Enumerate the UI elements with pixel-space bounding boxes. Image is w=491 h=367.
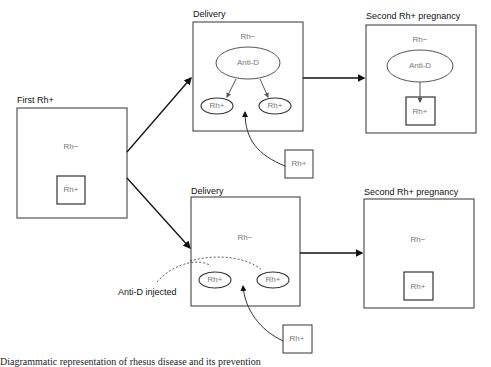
top-delivery-mother-rh: Rh− [241, 32, 256, 41]
bottom-incoming-rh-text: Rh+ [290, 334, 305, 343]
top-delivery-label: Delivery [193, 9, 226, 19]
bottom-delivery-cell-left-text: Rh+ [208, 275, 223, 284]
top-delivery-cell-left-text: Rh+ [210, 101, 225, 110]
first-mother-rh: Rh− [64, 142, 79, 151]
arrow-first-to-bottom-delivery [127, 178, 190, 248]
top-delivery-antid: Anti-D [237, 58, 259, 67]
top-second-fetus-rh: Rh+ [413, 107, 428, 116]
top-incoming-rh-text: Rh+ [292, 159, 307, 168]
top-second-mother-rh: Rh− [413, 35, 428, 44]
first-pregnancy-label: First Rh+ [17, 95, 54, 105]
arrow-first-to-top-delivery [127, 78, 191, 152]
figure-caption: Diagrammatic representation of rhesus di… [0, 356, 261, 367]
bottom-second-mother-rh: Rh− [411, 235, 426, 244]
first-pregnancy-box [17, 108, 127, 218]
top-delivery-cell-right-text: Rh+ [268, 101, 283, 110]
bottom-second-label: Second Rh+ pregnancy [364, 187, 458, 197]
bottom-second-box [364, 199, 474, 308]
anti-d-injected-label: Anti-D injected [118, 287, 177, 297]
bottom-delivery-mother-rh: Rh− [238, 233, 253, 242]
bottom-delivery-box [191, 197, 300, 306]
top-second-label: Second Rh+ pregnancy [366, 11, 460, 21]
bottom-delivery-label: Delivery [191, 186, 224, 196]
bottom-second-fetus-rh: Rh+ [411, 282, 426, 291]
bottom-delivery-cell-right-text: Rh+ [266, 275, 281, 284]
top-second-antid: Anti-D [409, 61, 431, 70]
diagram-canvas [0, 0, 491, 367]
first-fetus-rh: Rh+ [64, 185, 79, 194]
